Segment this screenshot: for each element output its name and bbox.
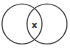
venn-diagram: x <box>0 0 70 48</box>
intersection-label: x <box>32 20 38 30</box>
